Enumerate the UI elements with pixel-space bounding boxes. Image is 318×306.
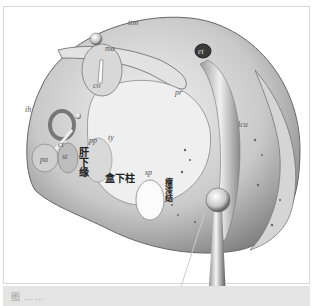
label-cn-right: 瘤漆结 (162, 178, 173, 202)
label-ma: ma (105, 44, 115, 53)
label-ct: ct (58, 140, 64, 149)
label-cn-center: 盒下柱 (105, 170, 135, 185)
label-ty: ty (108, 133, 114, 142)
label-co: co (93, 81, 101, 90)
label-st: st (62, 152, 67, 161)
artist-signature: Hidalgo (150, 236, 170, 242)
caption-text: 图 …… (11, 290, 45, 303)
probe-ball (206, 188, 230, 212)
knob-ring (75, 113, 81, 119)
label-sp: sp (145, 168, 152, 177)
label-ttm: ttm (128, 18, 138, 27)
label-ih: ih (25, 105, 31, 114)
label-pr: pr (175, 88, 182, 97)
knob-top (90, 33, 102, 45)
anatomy-illustration (0, 0, 318, 306)
nodule-white (136, 180, 164, 220)
label-et: et (198, 47, 204, 56)
label-pp: pp (89, 136, 97, 145)
label-lcu: lcu (238, 120, 248, 129)
label-pa: pa (40, 155, 48, 164)
label-cn-left: 肝下缘 (75, 147, 90, 177)
caption-strip: 图 …… (3, 286, 310, 306)
